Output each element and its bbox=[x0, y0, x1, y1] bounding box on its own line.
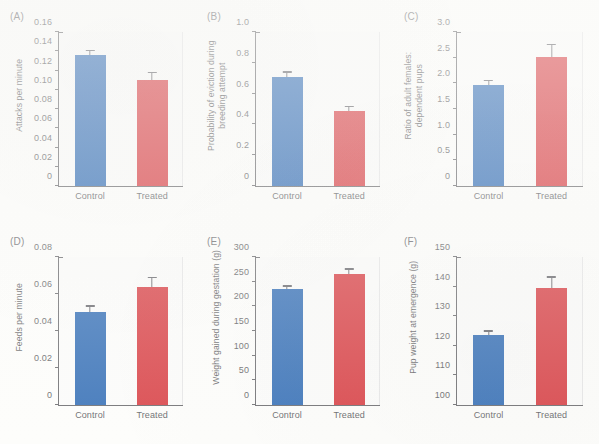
bar-a-treated[interactable]: Treated bbox=[137, 80, 168, 186]
y-tick-label-e-3: 150 bbox=[234, 316, 249, 326]
y-axis-title-a-text: Attacks per minute bbox=[14, 59, 25, 132]
bar-group-a: ControlTreated bbox=[59, 32, 183, 186]
error-bar-cap-d-control bbox=[85, 305, 94, 306]
bar-column-b-treated: Treated bbox=[334, 32, 365, 186]
y-tick-label-c-3: 1.5 bbox=[437, 94, 450, 104]
plot-frame-b: 00.20.40.60.81.0ControlTreated bbox=[255, 32, 380, 187]
y-axis-title-f-text: Pup weight at emergence (g) bbox=[409, 261, 420, 374]
bar-d-control[interactable]: Control bbox=[75, 312, 106, 405]
bar-column-a-control: Control bbox=[75, 32, 106, 186]
plot-area-d: 00.020.040.060.08ControlTreated bbox=[58, 257, 183, 406]
panel-letter-b: (B) bbox=[207, 11, 221, 22]
bar-a-control[interactable]: Control bbox=[75, 55, 106, 186]
y-tick-label-e-4: 200 bbox=[234, 291, 249, 301]
plot-area-f: 100110120130140150ControlTreated bbox=[456, 257, 583, 406]
x-tick-label-d-control: Control bbox=[75, 410, 106, 420]
error-bar-b-control bbox=[286, 71, 287, 76]
error-bar-cap-f-treated bbox=[547, 276, 556, 277]
panel-a: (A) Attacks per minute 00.020.040.060.08… bbox=[0, 0, 197, 225]
error-bar-cap-e-control bbox=[282, 285, 291, 286]
y-tick-label-d-0: 0 bbox=[47, 390, 52, 400]
x-tick-label-e-treated: Treated bbox=[334, 410, 365, 420]
y-tick-label-a-8: 0.16 bbox=[34, 17, 52, 27]
bar-column-c-treated: Treated bbox=[536, 32, 568, 186]
y-axis-title-a: Attacks per minute bbox=[6, 0, 32, 191]
y-tick-label-e-5: 250 bbox=[234, 267, 249, 277]
y-tick-label-a-3: 0.06 bbox=[34, 113, 52, 123]
bar-group-b: ControlTreated bbox=[256, 32, 380, 186]
plot-frame-d: 00.020.040.060.08ControlTreated bbox=[58, 257, 183, 406]
panel-letter-c: (C) bbox=[404, 11, 418, 22]
error-bar-cap-b-treated bbox=[344, 106, 353, 107]
y-axis-title-b-text: Probability of eviction during breeding … bbox=[205, 40, 226, 150]
bar-column-e-control: Control bbox=[272, 257, 303, 405]
y-axis-title-f: Pup weight at emergence (g) bbox=[400, 225, 428, 410]
y-tick-label-b-4: 0.8 bbox=[236, 48, 249, 58]
bar-e-treated[interactable]: Treated bbox=[334, 274, 365, 405]
y-tick-label-e-0: 0 bbox=[244, 390, 249, 400]
y-tick-label-e-1: 50 bbox=[239, 365, 249, 375]
plot-area-a: 00.020.040.060.080.100.120.140.16Control… bbox=[58, 32, 183, 187]
y-tick-label-a-1: 0.02 bbox=[34, 152, 52, 162]
y-axis-title-c: Ratio of adult females: dependent pups bbox=[400, 0, 428, 191]
error-bar-e-treated bbox=[348, 268, 349, 274]
bar-group-f: ControlTreated bbox=[457, 257, 583, 405]
y-tick-label-b-5: 1.0 bbox=[236, 17, 249, 27]
plot-frame-e: 050100150200250300ControlTreated bbox=[255, 257, 380, 406]
error-bar-cap-b-control bbox=[282, 71, 291, 72]
error-bar-cap-c-control bbox=[484, 80, 493, 81]
y-axis-title-e: Weight gained during gestation (g) bbox=[203, 225, 229, 410]
y-tick-label-b-0: 0 bbox=[244, 171, 249, 181]
x-tick-label-f-control: Control bbox=[473, 410, 505, 420]
bar-group-d: ControlTreated bbox=[59, 257, 183, 405]
plot-frame-f: 100110120130140150ControlTreated bbox=[456, 257, 583, 406]
error-bar-d-treated bbox=[151, 277, 152, 287]
panel-d: (D) Feeds per minute 00.020.040.060.08Co… bbox=[0, 225, 197, 444]
bar-column-c-control: Control bbox=[473, 32, 505, 186]
bar-column-f-control: Control bbox=[473, 257, 505, 405]
y-tick-label-f-2: 120 bbox=[435, 331, 450, 341]
error-bar-c-treated bbox=[551, 44, 552, 57]
bar-c-treated[interactable]: Treated bbox=[536, 57, 568, 186]
plot-area-e: 050100150200250300ControlTreated bbox=[255, 257, 380, 406]
error-bar-a-control bbox=[89, 50, 90, 55]
y-tick-label-c-5: 2.5 bbox=[437, 43, 450, 53]
bar-b-control[interactable]: Control bbox=[272, 77, 303, 186]
y-tick-label-a-7: 0.14 bbox=[34, 36, 52, 46]
error-bar-cap-a-control bbox=[85, 50, 94, 51]
error-bar-d-control bbox=[89, 305, 90, 311]
error-bar-f-treated bbox=[551, 276, 552, 288]
y-axis-title-c-text: Ratio of adult females: dependent pups bbox=[403, 52, 424, 140]
bar-f-treated[interactable]: Treated bbox=[536, 288, 568, 405]
y-tick-label-a-0: 0 bbox=[47, 171, 52, 181]
panel-f: (F) Pup weight at emergence (g) 10011012… bbox=[394, 225, 599, 444]
panel-e: (E) Weight gained during gestation (g) 0… bbox=[197, 225, 394, 444]
x-tick-label-b-treated: Treated bbox=[334, 191, 365, 201]
x-tick-label-c-treated: Treated bbox=[536, 191, 568, 201]
plot-frame-c: 00.51.01.52.02.53.0ControlTreated bbox=[456, 32, 583, 187]
plot-area-c: 00.51.01.52.02.53.0ControlTreated bbox=[456, 32, 583, 187]
y-tick-label-b-2: 0.4 bbox=[236, 109, 249, 119]
y-tick-label-d-3: 0.06 bbox=[34, 279, 52, 289]
error-bar-f-control bbox=[488, 330, 489, 335]
y-tick-label-e-2: 100 bbox=[234, 341, 249, 351]
bar-d-treated[interactable]: Treated bbox=[137, 287, 168, 405]
bar-c-control[interactable]: Control bbox=[473, 85, 505, 186]
y-tick-label-c-1: 0.5 bbox=[437, 145, 450, 155]
panel-letter-d: (D) bbox=[10, 236, 24, 247]
bar-e-control[interactable]: Control bbox=[272, 289, 303, 405]
y-tick-label-a-5: 0.10 bbox=[34, 75, 52, 85]
x-tick-label-d-treated: Treated bbox=[137, 410, 168, 420]
x-tick-label-a-control: Control bbox=[75, 191, 106, 201]
y-tick-label-d-1: 0.02 bbox=[34, 353, 52, 363]
error-bar-cap-c-treated bbox=[547, 44, 556, 45]
x-tick-label-c-control: Control bbox=[473, 191, 505, 201]
y-tick-label-c-4: 2.0 bbox=[437, 68, 450, 78]
y-tick-label-b-1: 0.2 bbox=[236, 140, 249, 150]
error-bar-cap-a-treated bbox=[147, 72, 156, 73]
bar-b-treated[interactable]: Treated bbox=[334, 111, 365, 186]
y-tick-label-a-4: 0.08 bbox=[34, 94, 52, 104]
bar-column-d-control: Control bbox=[75, 257, 106, 405]
bar-f-control[interactable]: Control bbox=[473, 335, 505, 405]
bar-column-b-control: Control bbox=[272, 32, 303, 186]
